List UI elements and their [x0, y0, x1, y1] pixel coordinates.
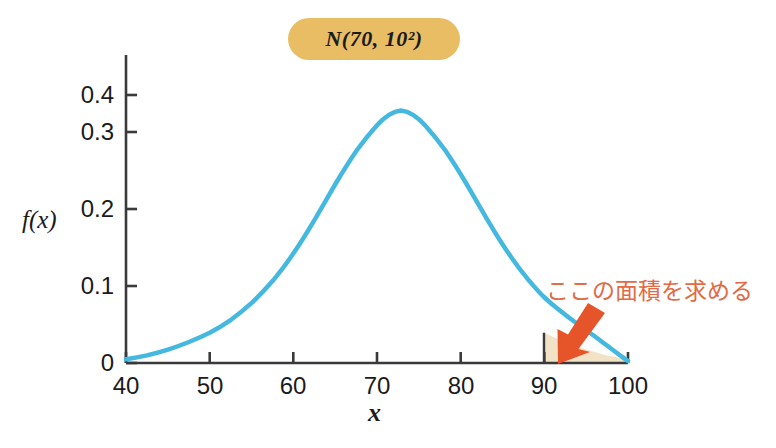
- x-tick-label-40: 40: [113, 372, 140, 400]
- y-tick-label-1: 0.1: [50, 272, 114, 300]
- area-annotation-label: ここの面積を求める: [546, 272, 753, 306]
- x-tick-label-80: 80: [448, 372, 475, 400]
- y-axis-ticks: [126, 95, 137, 363]
- y-axis-title: f(x): [22, 206, 57, 234]
- normal-density-curve: [126, 111, 628, 361]
- x-tick-label-90: 90: [531, 372, 558, 400]
- y-tick-label-0: 0: [64, 349, 114, 377]
- x-tick-label-50: 50: [197, 372, 224, 400]
- y-tick-label-2: 0.2: [50, 195, 114, 223]
- x-tick-label-60: 60: [280, 372, 307, 400]
- x-axis-title: x: [368, 398, 381, 428]
- x-tick-label-100: 100: [608, 372, 648, 400]
- normal-distribution-figure: N(70, 10²): [0, 0, 776, 448]
- y-tick-label-4: 0.4: [50, 81, 114, 109]
- y-tick-label-3: 0.3: [50, 118, 114, 146]
- x-tick-label-70: 70: [364, 372, 391, 400]
